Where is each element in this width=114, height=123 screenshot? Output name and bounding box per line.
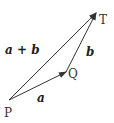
- vector-label-b: b: [86, 45, 94, 59]
- vector-diagram: P Q T a b a + b: [0, 0, 114, 123]
- vector-label-a-plus-b: a + b: [5, 43, 40, 57]
- point-label-q: Q: [68, 67, 78, 81]
- vector-label-a: a: [37, 91, 45, 105]
- point-label-t: T: [99, 13, 107, 27]
- vector-b-arrow: [66, 13, 96, 72]
- point-label-p: P: [4, 106, 12, 120]
